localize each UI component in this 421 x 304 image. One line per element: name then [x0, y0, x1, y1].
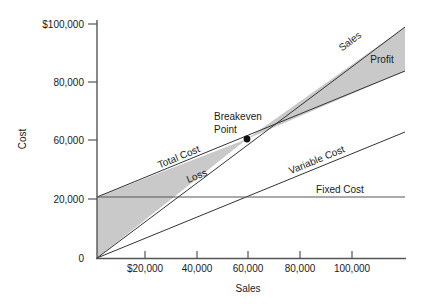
sales-series-label: Sales [337, 29, 364, 53]
chart-canvas: $100,000 80,000 60,000 20,000 0 $20,000 … [0, 0, 421, 304]
x-tick-label-100000: 100,000 [334, 263, 371, 274]
breakeven-point-marker [244, 136, 251, 143]
x-tick-label-40000: 40,000 [182, 263, 213, 274]
y-tick-label-100000: $100,000 [42, 19, 84, 30]
x-tick-label-60000: 60,000 [233, 263, 264, 274]
total-cost-line [97, 71, 405, 197]
y-tick-label-60000: 60,000 [53, 135, 84, 146]
y-tick-label-80000: 80,000 [53, 77, 84, 88]
y-tick-label-0: 0 [78, 253, 84, 264]
x-tick-label-80000: 80,000 [285, 263, 316, 274]
breakeven-chart: $100,000 80,000 60,000 20,000 0 $20,000 … [0, 0, 421, 304]
profit-region-label: Profit [370, 54, 394, 65]
sales-line [97, 27, 405, 258]
y-tick-label-20000: 20,000 [53, 194, 84, 205]
breakeven-label-line2: Point [214, 124, 237, 135]
profit-region [247, 27, 405, 139]
fixed-cost-series-label: Fixed Cost [316, 184, 364, 195]
y-axis-ticks [88, 24, 97, 199]
x-axis-title: Sales [235, 283, 260, 294]
y-axis-title: Cost [17, 128, 28, 149]
x-tick-label-20000: $20,000 [127, 263, 164, 274]
x-axis-ticks [145, 251, 352, 258]
breakeven-label-line1: Breakeven [214, 111, 262, 122]
